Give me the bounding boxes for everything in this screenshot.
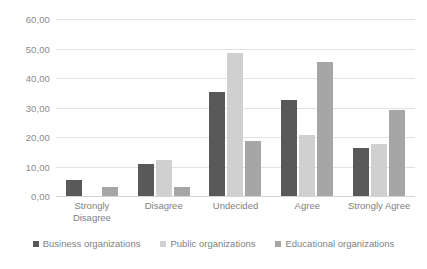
y-axis-tick-label: 60,00 bbox=[0, 14, 50, 25]
y-axis-tick-label: 30,00 bbox=[0, 102, 50, 113]
bar bbox=[389, 110, 405, 196]
bar bbox=[174, 187, 190, 196]
bar-group bbox=[128, 19, 200, 196]
bar bbox=[299, 135, 315, 196]
y-axis-tick-label: 40,00 bbox=[0, 73, 50, 84]
legend-swatch-icon bbox=[33, 241, 39, 247]
legend-label: Business organizations bbox=[43, 238, 141, 249]
bar bbox=[156, 160, 172, 196]
bar-group bbox=[200, 19, 272, 196]
legend-label: Public organizations bbox=[170, 238, 255, 249]
legend-swatch-icon bbox=[160, 241, 166, 247]
x-axis-category-label: Disagree bbox=[128, 200, 200, 224]
chart-legend: Business organizationsPublic organizatio… bbox=[0, 238, 427, 249]
gridline bbox=[56, 196, 415, 197]
y-axis-tick-label: 0,00 bbox=[0, 191, 50, 202]
bar bbox=[245, 141, 261, 196]
bar-group bbox=[271, 19, 343, 196]
bar bbox=[102, 187, 118, 196]
legend-swatch-icon bbox=[275, 241, 281, 247]
bar bbox=[209, 92, 225, 196]
y-axis-tick-label: 20,00 bbox=[0, 132, 50, 143]
x-axis-category-label: Strongly Agree bbox=[343, 200, 415, 224]
y-axis-tick-label: 10,00 bbox=[0, 161, 50, 172]
legend-item[interactable]: Business organizations bbox=[33, 238, 141, 249]
bar bbox=[371, 144, 387, 197]
plot-area bbox=[56, 19, 415, 196]
x-axis-category-label: Undecided bbox=[200, 200, 272, 224]
y-axis-tick-label: 50,00 bbox=[0, 43, 50, 54]
legend-label: Educational organizations bbox=[285, 238, 394, 249]
bar bbox=[317, 62, 333, 196]
bar bbox=[353, 148, 369, 196]
x-axis-category-labels: Strongly DisagreeDisagreeUndecidedAgreeS… bbox=[56, 200, 415, 224]
bar-groups bbox=[56, 19, 415, 196]
bar-group bbox=[343, 19, 415, 196]
bar-chart: 0,0010,0020,0030,0040,0050,0060,00 Stron… bbox=[0, 0, 427, 269]
bar-group bbox=[56, 19, 128, 196]
legend-item[interactable]: Educational organizations bbox=[275, 238, 394, 249]
x-axis-category-label: Strongly Disagree bbox=[56, 200, 128, 224]
x-axis-category-label: Agree bbox=[271, 200, 343, 224]
bar bbox=[281, 100, 297, 196]
legend-item[interactable]: Public organizations bbox=[160, 238, 255, 249]
bar bbox=[66, 180, 82, 196]
bar bbox=[138, 164, 154, 196]
bar bbox=[227, 53, 243, 196]
